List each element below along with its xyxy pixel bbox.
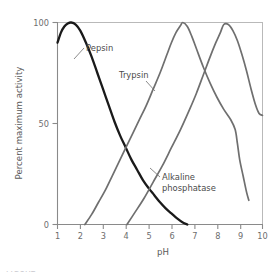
y-axis-ticks: 0 50 100 xyxy=(33,18,57,230)
pepsin-label-leader-line xyxy=(74,48,84,59)
x-tick-label-8: 8 xyxy=(215,231,220,241)
pepsin-label: Pepsin xyxy=(86,43,113,53)
series-line-alkaline-phosphatase xyxy=(127,24,263,225)
figure-container: 0 50 100 1 2 3 4 5 6 7 8 9 10 xyxy=(0,0,280,274)
trypsin-label: Trypsin xyxy=(118,70,149,80)
x-tick-label-10: 10 xyxy=(257,231,267,241)
x-axis-title: pH xyxy=(157,247,169,257)
x-tick-label-2: 2 xyxy=(78,231,83,241)
x-tick-label-7: 7 xyxy=(192,231,197,241)
x-tick-label-5: 5 xyxy=(146,231,151,241)
x-tick-label-9: 9 xyxy=(238,231,243,241)
x-tick-label-4: 4 xyxy=(124,231,129,241)
y-tick-label-100: 100 xyxy=(33,18,49,28)
alkaline-phosphatase-label: Alkalinephosphatase xyxy=(162,172,216,193)
x-tick-label-6: 6 xyxy=(169,231,174,241)
x-tick-label-3: 3 xyxy=(101,231,106,241)
y-tick-label-50: 50 xyxy=(39,119,49,129)
x-tick-label-1: 1 xyxy=(55,231,60,241)
y-axis-title: Percent maximum activity xyxy=(14,67,24,180)
x-axis-ticks: 1 2 3 4 5 6 7 8 9 10 xyxy=(55,225,268,242)
y-tick-label-0: 0 xyxy=(44,220,49,230)
enzyme-activity-ph-chart: 0 50 100 1 2 3 4 5 6 7 8 9 10 xyxy=(0,0,280,274)
